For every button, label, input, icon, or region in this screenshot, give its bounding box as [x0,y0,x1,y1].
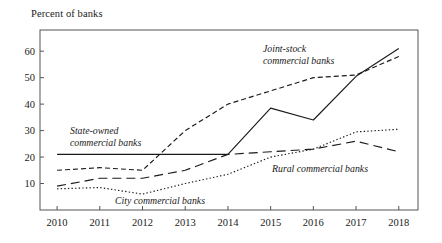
series-label-line: Joint-stock [263,43,307,54]
x-tick-label: 2013 [175,217,196,228]
series-annotations-group: State-ownedcommercial banksJoint-stockco… [70,43,368,206]
series-line [57,56,399,170]
y-tick-label: 30 [25,125,36,136]
y-tick-label: 50 [25,72,36,83]
chart-figure: Percent of banks 102030405060 2010201120… [0,0,442,243]
x-tick-label: 2018 [388,217,409,228]
series-label-state-owned: State-ownedcommercial banks [70,125,141,148]
x-tick-label: 2010 [47,217,68,228]
series-label-line: State-owned [70,125,119,136]
x-tick-label: 2017 [346,217,367,228]
x-axis-ticks: 201020112012201320142015201620172018 [47,206,410,228]
y-tick-label: 60 [25,46,36,57]
y-tick-label: 40 [25,99,36,110]
x-tick-label: 2016 [303,217,324,228]
series-label-line: City commercial banks [115,195,205,206]
series-label-line: commercial banks [70,137,141,148]
x-tick-label: 2011 [89,217,110,228]
line-chart-plot: 102030405060 201020112012201320142015201… [0,0,442,243]
y-tick-label: 10 [25,178,36,189]
series-label-rural: Rural commercial banks [271,163,368,174]
y-tick-label: 20 [25,152,36,163]
x-tick-label: 2012 [132,217,153,228]
x-tick-label: 2014 [217,217,239,228]
x-tick-label: 2015 [260,217,281,228]
plot-frame [40,30,418,210]
series-label-line: Rural commercial banks [271,163,368,174]
series-label-line: commercial banks [263,55,334,66]
series-label-joint-stock: Joint-stockcommercial banks [263,43,334,66]
y-axis-ticks: 102030405060 [25,46,45,189]
series-label-city: City commercial banks [115,195,205,206]
